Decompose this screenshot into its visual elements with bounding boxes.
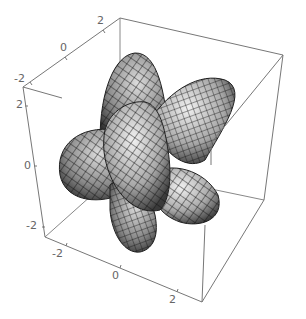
surface-plot [0, 0, 306, 319]
tick-left-2: 0 [24, 160, 31, 171]
tick-bottom-3: 2 [169, 294, 176, 305]
tick-top-3: 2 [97, 15, 104, 26]
tick-left-1: 2 [16, 99, 23, 110]
tick-left-3: -2 [26, 220, 37, 231]
tick-bottom-1: -2 [52, 248, 63, 259]
tick-top-2: 0 [60, 42, 67, 53]
surface [59, 53, 235, 252]
tick-top-1: -2 [14, 73, 25, 84]
tick-bottom-2: 0 [112, 270, 119, 281]
